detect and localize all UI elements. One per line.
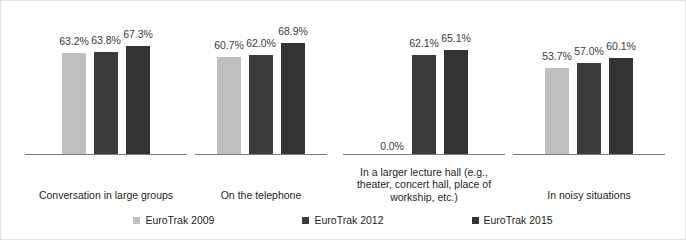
bar-value-label: 68.9% (278, 25, 307, 37)
legend-item-eurotrak-2012[interactable]: EuroTrak 2012 (302, 214, 383, 226)
category-group-3: 53.7% 57.0% 60.1% In noisy situations (509, 1, 669, 201)
category-label-line: In noisy situations (513, 189, 665, 202)
axis-line (25, 154, 187, 156)
bar-slot: 63.2% (62, 11, 86, 154)
bar-value-label-zero: 0.0% (380, 140, 404, 152)
bar-value-label: 63.2% (59, 35, 88, 47)
category-label-3: In noisy situations (509, 189, 669, 202)
bar-slot: 57.0% (577, 11, 601, 154)
bar-slot: 60.1% (609, 11, 633, 154)
bar-value-label: 60.7% (214, 39, 243, 51)
bar-slot: 67.3% (126, 11, 150, 154)
legend-swatch-icon (472, 217, 479, 224)
bar-slot: 60.7% (217, 11, 241, 154)
bar-slot: 53.7% (545, 11, 569, 154)
bar-value-label: 65.1% (441, 32, 470, 44)
bar-eurotrak-2015[interactable] (609, 58, 633, 154)
category-label-0: Conversation in large groups (21, 189, 191, 202)
legend-item-eurotrak-2015[interactable]: EuroTrak 2015 (472, 214, 553, 226)
bars-row: 0.0% 62.1% 65.1% (339, 11, 509, 154)
category-group-0: 63.2% 63.8% 67.3% Conversation in large … (21, 1, 191, 201)
bar-eurotrak-2012[interactable] (577, 63, 601, 154)
bar-slot: 62.0% (249, 11, 273, 154)
category-label-line: workship, etc.) (343, 191, 505, 204)
legend: EuroTrak 2009 EuroTrak 2012 EuroTrak 201… (1, 209, 685, 231)
category-label-line: In a larger lecture hall (e.g., (343, 166, 505, 179)
axis-line (513, 154, 665, 156)
bars-row: 60.7% 62.0% 68.9% (191, 11, 331, 154)
bar-value-label: 67.3% (123, 28, 152, 40)
axis-line (343, 154, 505, 156)
axis-line (195, 154, 327, 156)
bars-row: 53.7% 57.0% 60.1% (509, 11, 669, 154)
category-label-line: theater, concert hall, place of (343, 178, 505, 191)
legend-swatch-icon (133, 217, 140, 224)
category-label-line: On the telephone (195, 189, 327, 202)
plot-area: 63.2% 63.8% 67.3% Conversation in large … (1, 1, 686, 201)
bar-eurotrak-2015[interactable] (444, 50, 468, 154)
bar-slot: 65.1% (444, 11, 468, 154)
category-label-1: On the telephone (191, 189, 331, 202)
bar-eurotrak-2012[interactable] (249, 55, 273, 154)
category-label-2: In a larger lecture hall (e.g., theater,… (339, 166, 509, 204)
legend-item-eurotrak-2009[interactable]: EuroTrak 2009 (133, 214, 214, 226)
category-label-line: Conversation in large groups (25, 189, 187, 202)
bar-value-label: 57.0% (574, 45, 603, 57)
category-group-1: 60.7% 62.0% 68.9% On the telephone (191, 1, 331, 201)
legend-label: EuroTrak 2015 (484, 214, 553, 226)
legend-label: EuroTrak 2009 (145, 214, 214, 226)
bar-value-label: 53.7% (542, 50, 571, 62)
legend-label: EuroTrak 2012 (314, 214, 383, 226)
bar-value-label: 60.1% (606, 40, 635, 52)
bars-row: 63.2% 63.8% 67.3% (21, 11, 191, 154)
bar-slot: 62.1% (412, 11, 436, 154)
bar-eurotrak-2009[interactable] (545, 68, 569, 154)
bar-slot: 68.9% (281, 11, 305, 154)
bar-value-label: 62.0% (246, 37, 275, 49)
bar-eurotrak-2015[interactable] (126, 46, 150, 154)
bar-slot: 63.8% (94, 11, 118, 154)
bar-chart: 63.2% 63.8% 67.3% Conversation in large … (0, 0, 686, 240)
bar-value-label: 62.1% (409, 37, 438, 49)
bar-eurotrak-2012[interactable] (412, 55, 436, 154)
bar-slot: 0.0% (380, 11, 404, 154)
bar-eurotrak-2015[interactable] (281, 43, 305, 154)
bar-value-label: 63.8% (91, 34, 120, 46)
bar-eurotrak-2012[interactable] (94, 52, 118, 154)
bar-eurotrak-2009[interactable] (217, 57, 241, 154)
bar-eurotrak-2009[interactable] (62, 53, 86, 154)
category-group-2: 0.0% 62.1% 65.1% In a larger lecture hal… (339, 1, 509, 201)
legend-swatch-icon (302, 217, 309, 224)
